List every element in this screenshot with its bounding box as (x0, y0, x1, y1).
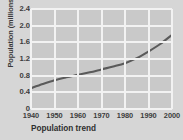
y-tick-label: 2.0 (8, 22, 30, 30)
gridline-vertical (77, 9, 79, 109)
gridline-vertical (30, 9, 32, 109)
x-tick-label: 1980 (112, 111, 138, 120)
x-tick-label: 1970 (89, 111, 115, 120)
y-tick-label: 1.2 (8, 55, 30, 63)
gridline-vertical (148, 9, 150, 109)
y-tick-label: 2.4 (8, 5, 30, 13)
y-axis-tick-labels: 00.40.81.21.62.02.4 (8, 0, 30, 115)
chart-title: Population trend (31, 124, 181, 133)
y-tick-label: 1.6 (8, 38, 30, 46)
x-axis-tick-labels: 1940195019601970198019902000 (31, 111, 172, 121)
gridline-vertical (54, 9, 56, 109)
gridline-vertical (124, 9, 126, 109)
chart-figure: Population (millions) 00.40.81.21.62.02.… (0, 0, 183, 140)
y-tick-label: 0.4 (8, 88, 30, 96)
gridline-vertical (171, 9, 173, 109)
gridline-vertical (101, 9, 103, 109)
x-tick-label: 2000 (159, 111, 183, 120)
x-tick-label: 1990 (136, 111, 162, 120)
x-tick-label: 1940 (18, 111, 44, 120)
x-tick-label: 1960 (65, 111, 91, 120)
y-tick-label: 0.8 (8, 72, 30, 80)
plot-area (31, 9, 172, 109)
x-tick-label: 1950 (42, 111, 68, 120)
